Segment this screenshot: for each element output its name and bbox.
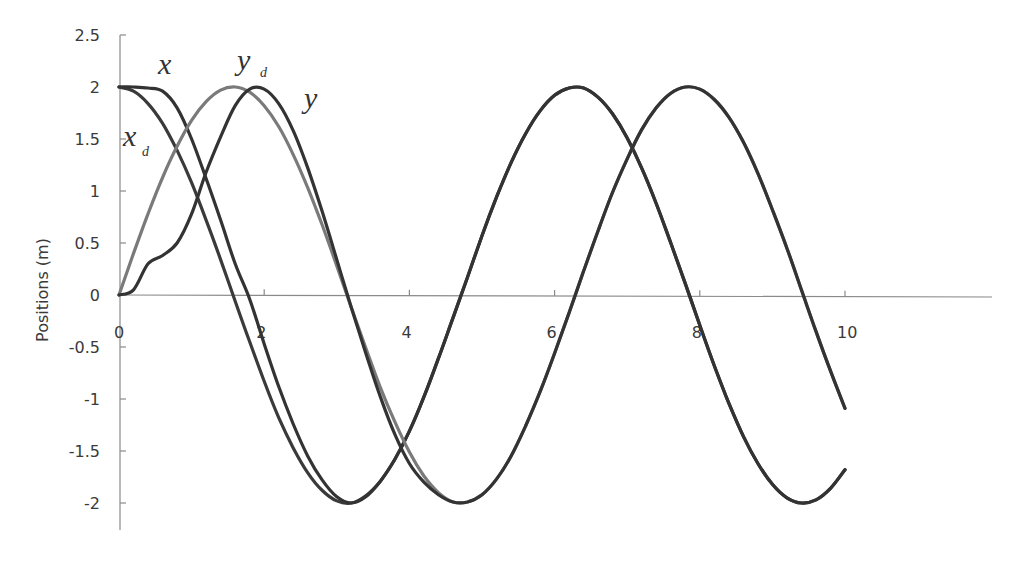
label-xd: x	[122, 119, 137, 152]
label-xd-subscript: d	[142, 144, 150, 159]
y-tick-label: -2	[84, 494, 100, 513]
x-tick-label: 0	[114, 323, 124, 342]
label-yd-subscript: d	[260, 65, 268, 80]
x-tick-label: 10	[837, 323, 857, 342]
label-y: y	[301, 81, 318, 114]
y-axis-title: Positions (m)	[33, 238, 52, 342]
y-tick-label: -1.5	[69, 442, 100, 461]
label-yd: y	[234, 43, 251, 76]
positions-chart: 2.521.510.50-0.5-1-1.5-2 0246810 Positio…	[0, 0, 1013, 583]
x-tick-label: 6	[547, 323, 557, 342]
y-tick-label: -1	[84, 390, 100, 409]
label-x: x	[157, 47, 172, 80]
y-tick-label: 1.5	[75, 130, 100, 149]
y-tick-label: 0.5	[75, 234, 100, 253]
y-tick-label: 0	[90, 286, 100, 305]
y-tick-label: 1	[90, 182, 100, 201]
y-tick-label: 2.5	[75, 26, 100, 45]
x-tick-label: 4	[401, 323, 411, 342]
y-ticks: 2.521.510.50-0.5-1-1.5-2	[69, 26, 126, 513]
x-ticks: 0246810	[114, 289, 857, 342]
y-tick-label: 2	[90, 78, 100, 97]
y-tick-label: -0.5	[69, 338, 100, 357]
